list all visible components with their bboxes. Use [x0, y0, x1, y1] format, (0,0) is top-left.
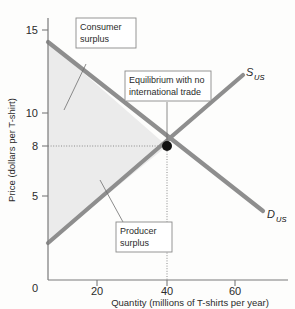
- equilibrium-line1: Equilibrium with no: [129, 75, 205, 85]
- y-tick-label-15: 15: [26, 24, 38, 36]
- y-tick-label-0: 0: [32, 282, 38, 294]
- svg-text:US: US: [276, 215, 286, 224]
- y-tick-label-5: 5: [32, 190, 38, 202]
- x-tick-label-20: 20: [91, 285, 103, 297]
- producer-surplus-line1: Producer: [120, 226, 157, 236]
- x-tick-label-60: 60: [229, 285, 241, 297]
- x-axis-title: Quantity (millions of T-shirts per year): [111, 297, 269, 308]
- y-tick-label-10: 10: [26, 107, 38, 119]
- svg-text:D: D: [267, 208, 275, 220]
- consumer-surplus-line1: Consumer: [80, 22, 122, 32]
- y-tick-label-8: 8: [32, 140, 38, 152]
- svg-text:S: S: [246, 66, 254, 78]
- chart-canvas: 15 10 8 5 0 20 40 60 Price (dollars per …: [0, 0, 295, 309]
- y-axis-title: Price (dollars per T-shirt): [6, 98, 17, 202]
- consumer-surplus-line2: surplus: [80, 34, 110, 44]
- supply-demand-chart: 15 10 8 5 0 20 40 60 Price (dollars per …: [0, 0, 295, 309]
- producer-surplus-line2: surplus: [120, 238, 150, 248]
- equilibrium-line2: international trade: [129, 87, 201, 97]
- svg-text:US: US: [254, 73, 264, 82]
- x-tick-label-40: 40: [161, 285, 173, 297]
- equilibrium-point-marker: [162, 141, 172, 151]
- demand-curve-label: D US: [267, 208, 286, 224]
- supply-curve-label: S US: [246, 66, 264, 82]
